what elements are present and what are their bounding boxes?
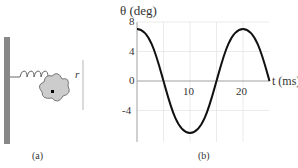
figure bbox=[0, 0, 298, 168]
xtick-10: 10 bbox=[183, 85, 194, 97]
disk-shape bbox=[39, 74, 69, 101]
ytick-0: 0 bbox=[129, 74, 135, 86]
wall bbox=[4, 37, 10, 144]
pivot-dot bbox=[51, 90, 54, 93]
ytick-4: 4 bbox=[129, 45, 135, 57]
chart bbox=[137, 22, 270, 142]
y-axis-label: θ (deg) bbox=[120, 3, 157, 19]
spring-icon bbox=[10, 71, 52, 77]
ytick-neg4: -4 bbox=[122, 104, 131, 116]
ytick-8: 8 bbox=[129, 15, 135, 27]
grid bbox=[137, 22, 269, 142]
caption-b: (b) bbox=[198, 150, 210, 161]
xtick-20: 20 bbox=[236, 85, 247, 97]
x-axis-label: t (ms) bbox=[272, 74, 298, 89]
caption-a: (a) bbox=[32, 150, 43, 161]
r-label: r bbox=[75, 68, 79, 80]
figure-a-drawing bbox=[4, 37, 83, 144]
